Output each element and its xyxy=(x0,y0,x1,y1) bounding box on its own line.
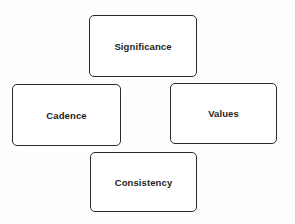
diagram-canvas: Significance Cadence Values Consistency xyxy=(0,0,295,224)
node-consistency: Consistency xyxy=(90,152,197,212)
node-label: Values xyxy=(208,108,239,119)
node-label: Significance xyxy=(114,41,171,52)
node-values: Values xyxy=(170,83,277,144)
node-cadence: Cadence xyxy=(12,84,121,146)
node-label: Cadence xyxy=(46,110,86,121)
node-label: Consistency xyxy=(115,177,173,188)
node-significance: Significance xyxy=(89,15,197,77)
